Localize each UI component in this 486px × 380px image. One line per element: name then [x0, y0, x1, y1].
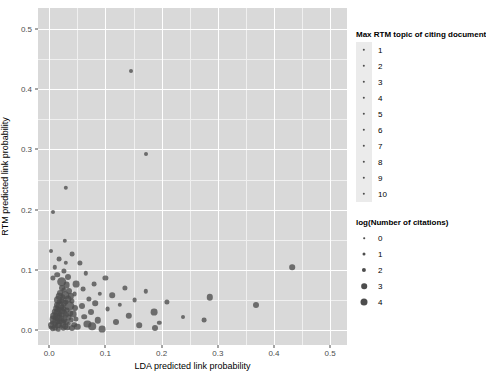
legend-item-label: 9	[378, 174, 382, 183]
y-tick-mark	[35, 149, 38, 150]
legend-key	[356, 90, 372, 106]
data-point	[51, 210, 55, 214]
legend-item[interactable]: 2	[356, 262, 448, 278]
data-point	[113, 319, 119, 325]
data-point	[152, 325, 158, 331]
legend-key-dot	[363, 129, 365, 131]
legend-item[interactable]: 4	[356, 90, 486, 106]
legend-key-dot	[363, 113, 365, 115]
data-point	[78, 260, 83, 265]
x-tick-mark	[273, 345, 274, 348]
x-tick-mark	[217, 345, 218, 348]
data-point	[57, 257, 62, 262]
legend-item[interactable]: 2	[356, 58, 486, 74]
color-legend-items: 12345678910	[356, 42, 486, 202]
data-point	[69, 252, 74, 257]
gridline-minor-vertical	[190, 8, 191, 345]
legend-item-label: 2	[378, 62, 382, 71]
legend-key-dot	[363, 49, 365, 51]
data-point	[122, 285, 127, 290]
legend-key	[356, 106, 372, 122]
data-point	[70, 298, 75, 303]
data-point	[132, 297, 137, 302]
data-point	[61, 268, 66, 273]
data-point	[72, 305, 78, 311]
legend-item[interactable]: 3	[356, 74, 486, 90]
legend-item-label: 7	[378, 142, 382, 151]
size-legend-title: log(Number of citations)	[356, 218, 448, 227]
legend-item[interactable]: 3	[356, 278, 448, 294]
legend-key	[356, 278, 372, 294]
data-point	[202, 318, 207, 323]
legend-key	[356, 230, 372, 246]
data-point	[289, 265, 295, 271]
gridline-major-vertical	[274, 8, 275, 345]
legend-item[interactable]: 8	[356, 154, 486, 170]
x-tick-label: 0.3	[212, 349, 223, 358]
data-point	[129, 69, 133, 73]
legend-item-label: 6	[378, 126, 382, 135]
x-tick-label: 0.1	[100, 349, 111, 358]
legend-item[interactable]: 4	[356, 294, 448, 310]
data-point	[150, 308, 157, 315]
data-point	[73, 281, 80, 288]
data-point	[93, 301, 99, 307]
data-point	[109, 292, 115, 298]
data-point	[81, 287, 86, 292]
y-tick-mark	[35, 29, 38, 30]
legend-key-dot	[363, 193, 365, 195]
gridline-minor-vertical	[246, 8, 247, 345]
legend-item-label: 8	[378, 158, 382, 167]
data-point	[64, 186, 68, 190]
legend-item-label: 3	[378, 282, 382, 291]
gridline-major-horizontal	[38, 89, 347, 90]
legend-item[interactable]: 6	[356, 122, 486, 138]
legend-key-dot	[362, 268, 366, 272]
legend-key	[356, 42, 372, 58]
legend-key	[356, 170, 372, 186]
legend-key-dot	[361, 299, 368, 306]
gridline-major-horizontal	[38, 330, 347, 331]
legend-item-label: 3	[378, 78, 382, 87]
legend-key	[356, 246, 372, 262]
color-legend: Max RTM topic of citing document 1234567…	[356, 30, 486, 202]
data-point	[79, 303, 85, 309]
data-point	[103, 276, 108, 281]
gridline-minor-vertical	[302, 8, 303, 345]
legend-item[interactable]: 1	[356, 246, 448, 262]
data-point	[88, 323, 96, 331]
legend-item[interactable]: 10	[356, 186, 486, 202]
gridline-major-vertical	[49, 8, 50, 345]
legend-key-dot	[363, 81, 365, 83]
legend-item-label: 5	[378, 110, 382, 119]
x-tick-label: 0.5	[325, 349, 336, 358]
legend-item[interactable]: 7	[356, 138, 486, 154]
data-point	[88, 309, 94, 315]
legend-item[interactable]: 1	[356, 42, 486, 58]
legend-key	[356, 138, 372, 154]
legend-key	[356, 294, 372, 310]
legend-key	[356, 262, 372, 278]
legend-key-dot	[363, 97, 365, 99]
gridline-major-horizontal	[38, 210, 347, 211]
data-point	[92, 282, 97, 287]
legend-item[interactable]: 5	[356, 106, 486, 122]
x-tick-mark	[49, 345, 50, 348]
x-tick-mark	[161, 345, 162, 348]
legend-item[interactable]: 9	[356, 170, 486, 186]
gridline-minor-vertical	[134, 8, 135, 345]
data-point	[65, 274, 71, 280]
legend-item[interactable]: 0	[356, 230, 448, 246]
plot-panel	[38, 8, 347, 345]
legend-key-dot	[363, 161, 365, 163]
data-point	[98, 292, 102, 296]
gridline-minor-horizontal	[38, 119, 347, 120]
gridline-major-vertical	[162, 8, 163, 345]
y-tick-mark	[35, 89, 38, 90]
data-point	[253, 302, 259, 308]
legend-key	[356, 74, 372, 90]
size-legend: log(Number of citations) 01234	[356, 218, 448, 310]
data-point	[181, 315, 185, 319]
x-tick-mark	[105, 345, 106, 348]
